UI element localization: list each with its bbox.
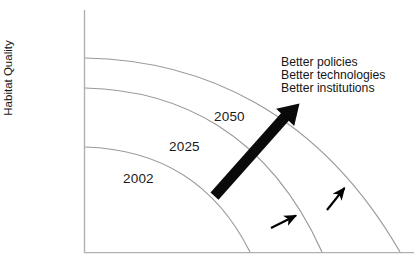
- curve-label-2002: 2002: [123, 172, 154, 186]
- small-arrow-upper: [327, 188, 345, 210]
- small-arrow-lower: [271, 216, 296, 229]
- curve-label-2050: 2050: [214, 110, 245, 124]
- frontier-curve-2002: [85, 147, 250, 252]
- curve-label-2025: 2025: [169, 140, 200, 154]
- figure-canvas: Wild Biodiversity and Habitat Quality 20…: [0, 0, 418, 270]
- improvement-annotation: Better policies Better technologies Bett…: [281, 56, 385, 96]
- y-axis-title: Wild Biodiversity and Habitat Quality: [0, 18, 15, 138]
- annotation-line-institutions: Better institutions: [281, 82, 385, 95]
- y-axis-title-line-3: Habitat Quality: [2, 18, 15, 138]
- frontier-diagram-svg: [0, 0, 418, 270]
